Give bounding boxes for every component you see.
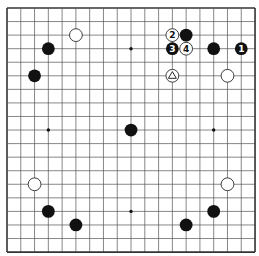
white-stone-2[interactable]: 2	[166, 29, 179, 42]
white-stone[interactable]	[166, 69, 179, 82]
black-stone-icon	[42, 205, 55, 218]
black-stone-icon	[180, 29, 193, 42]
white-stone-4[interactable]: 4	[180, 42, 193, 55]
move-number: 2	[169, 30, 175, 40]
white-stone[interactable]	[221, 178, 234, 191]
black-stone-icon	[207, 42, 220, 55]
black-stone[interactable]	[207, 42, 220, 55]
black-stone[interactable]	[180, 29, 193, 42]
move-number: 4	[183, 44, 189, 54]
white-stone[interactable]	[70, 29, 83, 42]
white-stone-icon	[221, 69, 234, 82]
star-point	[212, 128, 215, 131]
black-stone[interactable]	[70, 219, 83, 232]
black-stone[interactable]	[125, 124, 138, 137]
star-point	[47, 128, 50, 131]
black-stone-icon	[207, 205, 220, 218]
black-stone[interactable]	[207, 205, 220, 218]
white-stone[interactable]	[28, 178, 41, 191]
black-stone[interactable]	[28, 69, 41, 82]
move-number: 1	[238, 44, 244, 54]
black-stone-3[interactable]: 3	[166, 42, 179, 55]
star-point	[129, 210, 132, 213]
black-stone[interactable]	[42, 42, 55, 55]
white-stone-icon	[70, 29, 83, 42]
star-point	[129, 47, 132, 50]
black-stone[interactable]	[42, 205, 55, 218]
go-board[interactable]: 2341	[0, 0, 259, 256]
black-stone-1[interactable]: 1	[235, 42, 248, 55]
black-stone-icon	[28, 69, 41, 82]
black-stone-icon	[180, 219, 193, 232]
white-stone-icon	[28, 178, 41, 191]
move-number: 3	[169, 44, 175, 54]
black-stone-icon	[42, 42, 55, 55]
white-stone[interactable]	[221, 69, 234, 82]
white-stone-icon	[221, 178, 234, 191]
black-stone-icon	[70, 219, 83, 232]
black-stone-icon	[125, 124, 138, 137]
black-stone[interactable]	[180, 219, 193, 232]
